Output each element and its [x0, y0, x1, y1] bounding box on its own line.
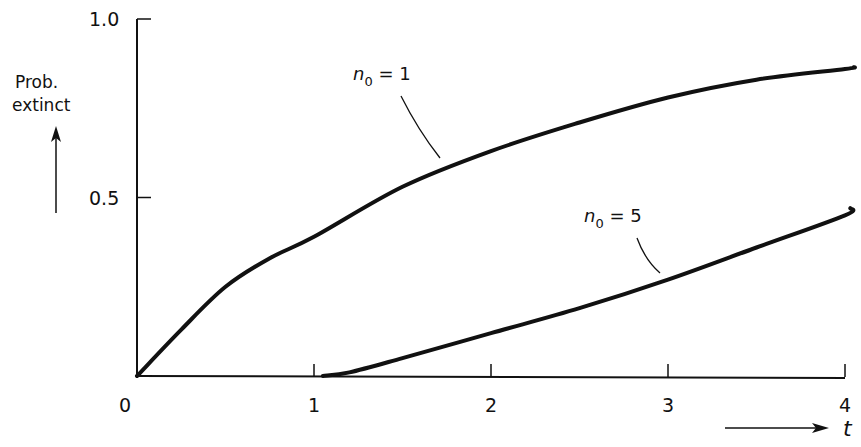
leader-line-n0-1 — [401, 96, 440, 158]
x-tick-label-1: 1 — [308, 394, 320, 416]
curve-n0-1 — [137, 67, 855, 376]
extinction-probability-chart: 012340.51.0 Prob. extinct t n0 = 1 — [0, 0, 861, 447]
right-arrow-icon — [725, 423, 829, 433]
x-tick-label-4: 4 — [839, 394, 851, 416]
curve-label-n0-5-main: n — [584, 205, 595, 226]
leader-line-n0-5 — [637, 238, 660, 273]
x-axis-label: t — [843, 416, 853, 441]
curve-label-n0-1-rest: = 1 — [373, 63, 411, 84]
curve-label-n0-5-rest: = 5 — [604, 205, 642, 226]
y-axis-title-line-1: Prob. — [15, 72, 58, 92]
y-axis-title: Prob. extinct — [12, 72, 71, 213]
x-tick-label-2: 2 — [485, 394, 497, 416]
x-tick-label-3: 3 — [662, 394, 674, 416]
svg-text:n0 = 5: n0 = 5 — [584, 205, 642, 231]
ticks — [137, 19, 845, 377]
curve-label-n0-5-sub: 0 — [595, 216, 603, 231]
axes — [137, 19, 845, 378]
curves — [137, 67, 855, 376]
x-tick-label-0: 0 — [119, 394, 131, 416]
curve-n0-5 — [323, 208, 853, 376]
curve-label-n0-5: n0 = 5 — [584, 205, 660, 273]
x-axis-title: t — [725, 416, 853, 441]
svg-text:n0 = 1: n0 = 1 — [353, 63, 411, 89]
curve-label-n0-1: n0 = 1 — [353, 63, 440, 158]
tick-labels: 012340.51.0 — [89, 8, 851, 416]
up-arrow-icon — [51, 126, 61, 213]
chart-canvas: 012340.51.0 Prob. extinct t n0 = 1 — [0, 0, 861, 447]
curve-label-n0-1-sub: 0 — [364, 74, 372, 89]
curve-label-n0-1-main: n — [353, 63, 364, 84]
y-axis-title-line-2: extinct — [12, 95, 71, 115]
y-tick-label-0.5: 0.5 — [89, 187, 119, 209]
y-tick-label-1: 1.0 — [89, 8, 119, 30]
